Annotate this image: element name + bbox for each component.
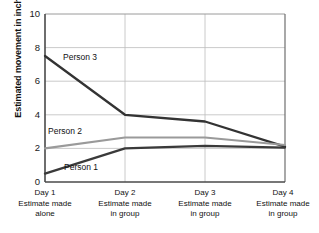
x-tick-day-2-day: Day 2 [98,188,151,199]
y-tick-6: 6 [35,76,40,86]
x-tick-day-3-line1: Estimate made [178,199,231,210]
y-tick-4: 4 [35,110,40,120]
x-tick-day-1: Day 1 Estimate made alone [18,188,71,220]
vertical-gridlines [125,14,205,182]
x-tick-day-3: Day 3 Estimate made in group [178,188,231,220]
x-tick-day-3-day: Day 3 [178,188,231,199]
y-tick-0: 0 [35,177,40,187]
series-annotation-person-1: Person 1 [64,163,98,172]
x-tick-day-4-line2: in group [256,209,309,220]
x-tick-day-4-day: Day 4 [256,188,309,199]
series-annotation-person-2: Person 2 [48,127,82,136]
x-tick-day-1-line2: alone [18,209,71,220]
line-chart: Estimated movement in inches 10 8 6 4 2 … [0,0,319,233]
y-tick-10: 10 [29,9,40,19]
x-tick-day-2-line1: Estimate made [98,199,151,210]
x-tick-day-1-line1: Estimate made [18,199,71,210]
x-tick-day-4: Day 4 Estimate made in group [256,188,309,220]
x-tick-day-3-line2: in group [178,209,231,220]
x-tick-day-4-line1: Estimate made [256,199,309,210]
series-annotation-person-3: Person 3 [63,53,97,62]
x-tick-day-2: Day 2 Estimate made in group [98,188,151,220]
y-tick-2: 2 [35,144,40,154]
plot-frame [45,14,285,182]
x-tick-day-2-line2: in group [98,209,151,220]
y-tick-8: 8 [35,43,40,53]
x-tick-day-1-day: Day 1 [18,188,71,199]
